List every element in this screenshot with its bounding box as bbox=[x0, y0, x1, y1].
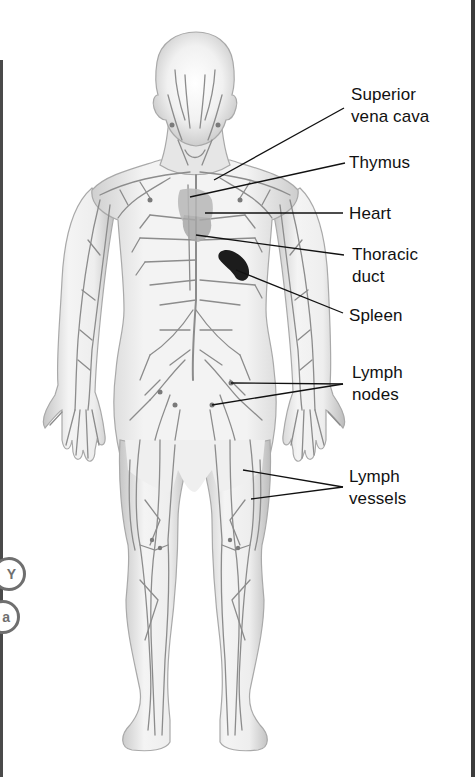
head bbox=[153, 32, 237, 146]
label-spleen: Spleen bbox=[349, 305, 403, 327]
leader-line-superior-vena-cava bbox=[214, 108, 344, 180]
label-lymph-nodes: Lymph nodes bbox=[352, 362, 403, 406]
label-thoracic-duct: Thoracic duct bbox=[352, 244, 418, 288]
label-thymus: Thymus bbox=[349, 152, 410, 174]
label-lymph-vessels: Lymph vessels bbox=[349, 466, 406, 510]
label-heart: Heart bbox=[349, 203, 391, 225]
label-superior-vena-cava: Superior vena cava bbox=[351, 84, 429, 128]
diagram-canvas: Superior vena cava Thymus Heart Thoracic… bbox=[0, 0, 475, 777]
